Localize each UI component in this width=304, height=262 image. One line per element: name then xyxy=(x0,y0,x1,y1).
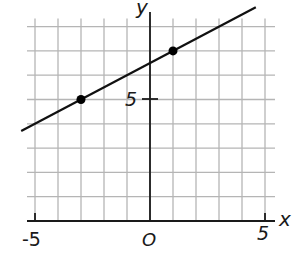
data-point xyxy=(169,46,178,55)
data-point xyxy=(77,95,86,104)
y-axis-label: y xyxy=(135,0,149,19)
coordinate-plane: y x -5 O 5 5 xyxy=(0,0,304,262)
y-tick-label-5: 5 xyxy=(125,88,137,110)
data-line xyxy=(21,7,256,131)
origin-label: O xyxy=(142,229,156,250)
x-tick-label-5: 5 xyxy=(257,222,269,244)
x-tick-label-neg5: -5 xyxy=(22,228,41,250)
x-axis-label: x xyxy=(278,207,291,231)
grid xyxy=(27,19,275,221)
